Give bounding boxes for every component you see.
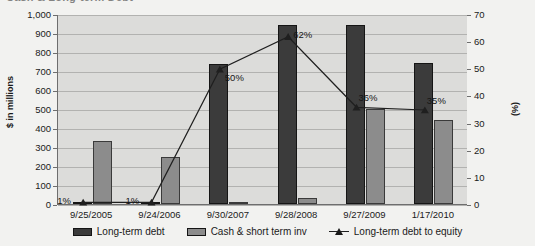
y-axis-right-tick-label: 30	[474, 119, 514, 128]
y-axis-right-tick-label: 0	[474, 200, 514, 209]
y-axis-left-tick-mark	[53, 34, 57, 35]
line-marker-triangle-icon	[284, 33, 292, 40]
data-label: 50%	[225, 73, 244, 83]
legend-item-long-term-debt-to-equity[interactable]: Long-term debt to equity	[329, 226, 462, 237]
y-axis-left-tick-mark	[53, 167, 57, 168]
y-axis-right-tick-label: 70	[474, 10, 514, 19]
data-label: 62%	[293, 30, 312, 40]
y-axis-right-tick-mark	[467, 178, 471, 179]
y-axis-left-tick-label: 700	[5, 67, 51, 76]
data-label: 35%	[427, 96, 446, 106]
chart-container: Cash & Long-term Debt $ in millions (%) …	[0, 0, 535, 246]
y-axis-left-tick-label: 0	[5, 200, 51, 209]
y-axis-left-tick-mark	[53, 148, 57, 149]
legend-item-cash-short-term-inv[interactable]: Cash & short term inv	[187, 226, 307, 237]
legend-item-long-term-debt[interactable]: Long-term debt	[73, 226, 165, 237]
y-axis-right-tick-mark	[467, 205, 471, 206]
legend-swatch-icon	[73, 228, 92, 236]
data-label: 1%	[57, 196, 71, 206]
y-axis-left-tick-label: 1,000	[5, 10, 51, 19]
y-axis-left-tick-label: 500	[5, 105, 51, 114]
data-label: 1%	[126, 196, 140, 206]
plot-area	[57, 15, 467, 205]
y-axis-right-tick-mark	[467, 96, 471, 97]
data-label: 36%	[359, 93, 378, 103]
y-axis-right-tick-mark	[467, 15, 471, 16]
y-axis-left-tick-mark	[53, 129, 57, 130]
y-axis-right-tick-label: 60	[474, 37, 514, 46]
line-marker-triangle-icon	[216, 66, 224, 73]
y-axis-left-tick-label: 300	[5, 143, 51, 152]
y-axis-right-tick-label: 20	[474, 146, 514, 155]
y-axis-right-tick-label: 10	[474, 173, 514, 182]
y-axis-right-tick-label: 50	[474, 64, 514, 73]
legend-swatch-icon	[187, 228, 206, 236]
legend-label: Cash & short term inv	[211, 226, 307, 237]
y-axis-left-tick-mark	[53, 186, 57, 187]
y-axis-left-tick-label: 900	[5, 29, 51, 38]
y-axis-left-tick-label: 800	[5, 48, 51, 57]
line-series-layer	[58, 15, 468, 205]
y-axis-right-tick-mark	[467, 124, 471, 125]
y-axis-left-tick-mark	[53, 53, 57, 54]
y-axis-left-tick-label: 200	[5, 162, 51, 171]
y-axis-left-tick-mark	[53, 110, 57, 111]
x-axis-tick-label: 1/17/2010	[393, 209, 473, 220]
y-axis-right-tick-label: 40	[474, 91, 514, 100]
legend-line-marker-icon	[329, 228, 349, 236]
y-axis-left-tick-label: 400	[5, 124, 51, 133]
legend-label: Long-term debt to equity	[354, 226, 462, 237]
y-axis-left-tick-mark	[53, 15, 57, 16]
chart-legend: Long-term debt Cash & short term inv Lon…	[0, 226, 535, 237]
legend-label: Long-term debt	[97, 226, 165, 237]
line-path-long-term-debt-to-equity	[83, 37, 425, 203]
y-axis-left-tick-label: 100	[5, 181, 51, 190]
y-axis-right-tick-mark	[467, 42, 471, 43]
y-axis-left-tick-mark	[53, 72, 57, 73]
y-axis-right-tick-mark	[467, 69, 471, 70]
y-axis-left-tick-mark	[53, 91, 57, 92]
chart-title: Cash & Long-term Debt	[6, 0, 133, 3]
y-axis-left-tick-label: 600	[5, 86, 51, 95]
y-axis-right-tick-mark	[467, 151, 471, 152]
